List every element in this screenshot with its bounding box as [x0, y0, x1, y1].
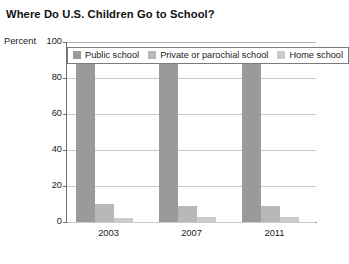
y-tick-label: 20 [36, 180, 62, 190]
gridline [67, 114, 316, 115]
gridline [67, 222, 316, 223]
plot-area [67, 42, 316, 222]
y-axis-label: Percent [4, 36, 36, 46]
bar [95, 204, 114, 222]
y-tick-label: 80 [36, 72, 62, 82]
bar [159, 64, 178, 222]
gridline [67, 42, 316, 43]
gridline [67, 186, 316, 187]
bar [178, 206, 197, 222]
legend-label: Private or parochial school [160, 51, 268, 60]
legend-label: Home school [289, 51, 343, 60]
legend-item: Private or parochial school [148, 51, 268, 60]
bar [197, 217, 216, 222]
y-tick-label: 60 [36, 108, 62, 118]
legend-item: Public school [73, 51, 139, 60]
x-tick-label: 2003 [79, 228, 139, 238]
chart-title: Where Do U.S. Children Go to School? [6, 8, 215, 20]
legend-swatch-icon [73, 51, 81, 59]
bar [114, 218, 133, 222]
bar [261, 206, 280, 222]
legend-swatch-icon [148, 51, 156, 59]
bar [242, 62, 261, 222]
x-tick-label: 2007 [162, 228, 222, 238]
chart-legend: Public schoolPrivate or parochial school… [67, 47, 349, 64]
x-tick-label: 2011 [245, 228, 305, 238]
bar [76, 64, 95, 222]
y-tick-label: 100 [36, 36, 62, 46]
bar [280, 217, 299, 222]
legend-swatch-icon [277, 51, 285, 59]
y-tick-label: 0 [36, 216, 62, 226]
y-tick-label: 40 [36, 144, 62, 154]
gridline [67, 78, 316, 79]
legend-item: Home school [277, 51, 343, 60]
legend-label: Public school [85, 51, 139, 60]
gridline [67, 150, 316, 151]
